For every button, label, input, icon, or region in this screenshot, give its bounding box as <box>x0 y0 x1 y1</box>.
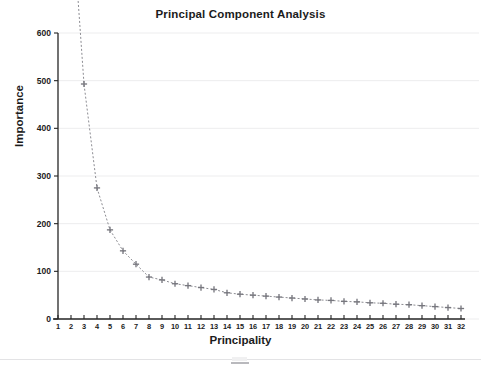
svg-text:600: 600 <box>37 28 51 38</box>
svg-text:3: 3 <box>82 322 86 330</box>
svg-text:26: 26 <box>379 322 387 330</box>
x-tick-labels: 1234567891011121314151617181920212223242… <box>56 322 465 330</box>
svg-text:200: 200 <box>37 219 51 229</box>
plot-area: 0100200300400500600 12345678910111213141… <box>0 0 481 330</box>
y-tick-labels: 0100200300400500600 <box>37 28 51 324</box>
svg-text:27: 27 <box>392 322 400 330</box>
svg-text:5: 5 <box>108 322 112 330</box>
svg-text:15: 15 <box>236 322 244 330</box>
svg-text:22: 22 <box>327 322 335 330</box>
svg-text:8: 8 <box>147 322 151 330</box>
svg-text:23: 23 <box>340 322 348 330</box>
svg-text:32: 32 <box>457 322 465 330</box>
svg-text:18: 18 <box>275 322 283 330</box>
svg-text:25: 25 <box>366 322 374 330</box>
svg-text:24: 24 <box>353 322 362 330</box>
svg-text:300: 300 <box>37 171 51 181</box>
svg-text:19: 19 <box>288 322 296 330</box>
legend-swatch-background <box>232 357 247 361</box>
svg-text:30: 30 <box>431 322 439 330</box>
legend-swatch-clipped <box>231 362 249 364</box>
svg-text:500: 500 <box>37 76 51 86</box>
svg-text:0: 0 <box>46 314 51 324</box>
svg-text:17: 17 <box>262 322 270 330</box>
svg-text:11: 11 <box>184 322 192 330</box>
series-line <box>58 0 461 309</box>
svg-text:9: 9 <box>160 322 164 330</box>
svg-text:28: 28 <box>405 322 413 330</box>
series-path-group <box>58 0 461 309</box>
svg-text:4: 4 <box>95 322 100 330</box>
svg-text:31: 31 <box>444 322 452 330</box>
x-axis-title: Principality <box>0 334 481 346</box>
svg-text:2: 2 <box>69 322 73 330</box>
svg-text:100: 100 <box>37 266 51 276</box>
svg-text:7: 7 <box>134 322 138 330</box>
svg-text:10: 10 <box>171 322 179 330</box>
svg-text:13: 13 <box>210 322 218 330</box>
y-axis <box>54 33 58 319</box>
gridlines <box>58 33 479 319</box>
svg-text:21: 21 <box>314 322 322 330</box>
chart-container: Principal Component Analysis Importance … <box>0 0 481 367</box>
x-axis <box>53 315 465 319</box>
svg-text:14: 14 <box>223 322 232 330</box>
svg-text:29: 29 <box>418 322 426 330</box>
svg-text:6: 6 <box>121 322 125 330</box>
svg-text:12: 12 <box>197 322 205 330</box>
svg-text:20: 20 <box>301 322 309 330</box>
data-markers <box>81 81 464 312</box>
svg-text:1: 1 <box>56 322 60 330</box>
svg-text:400: 400 <box>37 123 51 133</box>
svg-text:16: 16 <box>249 322 257 330</box>
